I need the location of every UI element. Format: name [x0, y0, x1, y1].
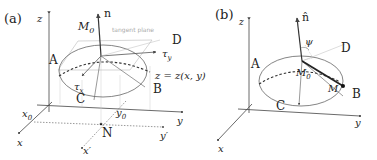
panel-b: (b) z n̂ ψ D A M0 M B C y x — [215, 7, 361, 154]
point-B-label: B — [352, 87, 361, 101]
psi-arc — [300, 47, 309, 50]
y-axis — [238, 109, 360, 116]
y-prime-axis — [34, 122, 163, 127]
panel-a-tag: (a) — [4, 11, 22, 26]
point-M0-label: M0 — [295, 67, 311, 81]
point-A-label: A — [250, 57, 260, 71]
normal-vector — [98, 14, 101, 56]
panel-b-tag: (b) — [215, 7, 233, 22]
x-prime-label: x′ — [83, 145, 92, 156]
surface-ellipse — [259, 56, 343, 106]
point-N-label: N — [102, 126, 113, 140]
point-B-label: B — [153, 82, 162, 96]
x0-label: x0 — [22, 108, 33, 122]
y-axis-label: y — [176, 115, 183, 126]
z-axis-label: z — [36, 13, 43, 24]
point-C-label: C — [276, 99, 285, 113]
diagram-canvas: (a) z M0 n tangent plane D τy A z = z(x,… — [0, 0, 377, 160]
tangent-plane-label: tangent plane — [112, 26, 154, 34]
curve-to-B — [101, 56, 145, 87]
normal-vector — [297, 18, 302, 61]
normal-label: n̂ — [302, 11, 309, 24]
point-A-label: A — [48, 53, 58, 67]
point-C-label: C — [76, 92, 85, 106]
point-D-label: D — [341, 41, 351, 55]
point-M — [341, 84, 345, 88]
psi-label: ψ — [305, 36, 313, 47]
x-axis — [218, 104, 252, 140]
point-M0-label: M0 — [77, 20, 94, 35]
panel-a: (a) z M0 n tangent plane D τy A z = z(x,… — [4, 7, 206, 156]
point-D-label: D — [172, 33, 182, 47]
surface-curve-dashed — [59, 62, 150, 76]
z-axis-label: z — [238, 17, 244, 27]
y-axis — [37, 105, 182, 112]
y-axis-label: y — [354, 117, 361, 128]
surface-ellipse — [59, 45, 147, 97]
point-M-label: M — [327, 83, 339, 94]
normal-label: n — [104, 7, 111, 20]
x-axis-label: x — [218, 143, 224, 154]
y-prime-label: y′ — [159, 130, 169, 141]
angle-construction — [304, 45, 313, 60]
surface-equation: z = z(x, y) — [154, 70, 206, 81]
x-axis-label: x — [17, 137, 23, 148]
tau-y-label: τy — [162, 48, 173, 62]
